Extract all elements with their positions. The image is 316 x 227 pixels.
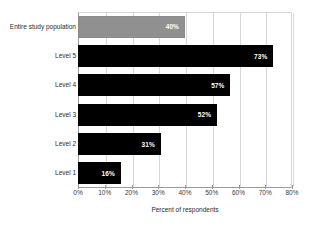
bar: 31%	[78, 133, 161, 155]
x-tick-label: 30%	[152, 189, 165, 196]
gridline	[240, 13, 241, 187]
bar: 73%	[78, 45, 273, 67]
gridline	[106, 13, 107, 187]
bar-value-label: 52%	[198, 111, 216, 118]
category-label: Level 1	[2, 169, 76, 176]
bar: 57%	[78, 74, 230, 96]
bar-row: 40%	[78, 16, 292, 38]
x-tick-label: 20%	[125, 189, 138, 196]
bar-row: 16%	[78, 162, 292, 184]
category-label: Level 4	[2, 81, 76, 88]
category-label: Level 3	[2, 111, 76, 118]
bar-value-label: 16%	[101, 170, 119, 177]
gridline	[266, 13, 267, 187]
x-tick-label: 70%	[259, 189, 272, 196]
bar-row: 73%	[78, 45, 292, 67]
category-axis-labels: Entire study populationLevel 5Level 4Lev…	[0, 12, 76, 188]
gridline	[186, 13, 187, 187]
x-tick-label: 60%	[232, 189, 245, 196]
bar-value-label: 40%	[166, 23, 184, 30]
bar-value-label: 73%	[254, 53, 272, 60]
category-label: Level 5	[2, 52, 76, 59]
gridline	[159, 13, 160, 187]
gridline	[293, 13, 294, 187]
x-axis-title: Percent of respondents	[78, 206, 292, 213]
bar-value-label: 57%	[211, 82, 229, 89]
gridline	[213, 13, 214, 187]
bar: 40%	[78, 16, 185, 38]
bar-value-label: 31%	[142, 141, 160, 148]
bar: 52%	[78, 104, 217, 126]
x-tick-label: 50%	[205, 189, 218, 196]
bar-chart: Entire study populationLevel 5Level 4Lev…	[0, 0, 316, 227]
bar: 16%	[78, 162, 121, 184]
category-label: Level 2	[2, 140, 76, 147]
x-tick-label: 80%	[285, 189, 298, 196]
category-label: Entire study population	[2, 23, 76, 30]
x-tick-label: 40%	[178, 189, 191, 196]
x-tick-label: 10%	[98, 189, 111, 196]
gridline	[133, 13, 134, 187]
bar-row: 31%	[78, 133, 292, 155]
bar-row: 52%	[78, 104, 292, 126]
x-axis-ticks: 0%10%20%30%40%50%60%70%80%	[78, 189, 292, 203]
x-tick-label: 0%	[73, 189, 82, 196]
bar-row: 57%	[78, 74, 292, 96]
